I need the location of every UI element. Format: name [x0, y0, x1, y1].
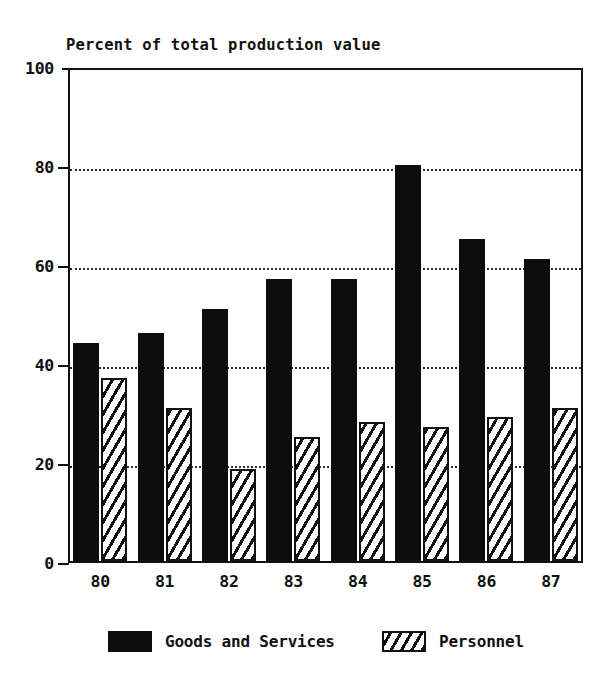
x-axis-tick-label: 86	[477, 572, 496, 591]
bar-86-personnel	[487, 417, 513, 561]
bar-85-personnel	[423, 427, 449, 561]
y-axis-tick-label: 80	[35, 158, 54, 177]
bar-83-personnel	[294, 437, 320, 561]
y-axis-tick-label: 40	[35, 356, 54, 375]
y-axis-tick-mark	[58, 563, 69, 565]
chart-legend: Goods and ServicesPersonnel	[0, 628, 612, 664]
bar-87-goods-and-services	[524, 259, 550, 561]
bar-81-personnel	[166, 408, 192, 561]
bar-81-goods-and-services	[138, 333, 164, 561]
legend-swatch-hatch	[382, 631, 426, 652]
bar-82-goods-and-services	[202, 309, 228, 561]
gridline	[70, 169, 581, 171]
y-axis-tick-label: 60	[35, 257, 54, 276]
bar-83-goods-and-services	[266, 279, 292, 561]
bar-84-personnel	[359, 422, 385, 561]
bar-87-personnel	[552, 408, 578, 561]
y-axis-tick-label: 100	[25, 59, 54, 78]
chart-title: Percent of total production value	[66, 36, 381, 54]
x-axis-labels: 8081828384858687	[68, 572, 583, 600]
bar-86-goods-and-services	[459, 239, 485, 561]
x-axis-tick-label: 81	[155, 572, 174, 591]
bar-82-personnel	[230, 469, 256, 561]
bar-80-personnel	[101, 378, 127, 561]
y-axis-labels: 020406080100	[0, 0, 68, 680]
x-axis-tick-label: 87	[541, 572, 560, 591]
bar-84-goods-and-services	[331, 279, 357, 561]
bar-85-goods-and-services	[395, 165, 421, 561]
x-axis-tick-label: 83	[284, 572, 303, 591]
legend-item: Personnel	[382, 628, 524, 654]
y-axis-tick-label: 20	[35, 455, 54, 474]
legend-swatch-solid	[108, 631, 152, 652]
bar-chart-figure: Percent of total production value 020406…	[0, 0, 612, 680]
x-axis-tick-label: 82	[219, 572, 238, 591]
y-axis-tick-label: 0	[44, 554, 54, 573]
legend-label: Goods and Services	[165, 632, 335, 651]
gridline	[70, 268, 581, 270]
x-axis-tick-label: 85	[412, 572, 431, 591]
x-axis-tick-label: 84	[348, 572, 367, 591]
legend-label: Personnel	[439, 632, 524, 651]
x-axis-tick-label: 80	[91, 572, 110, 591]
plot-area	[68, 68, 583, 563]
bar-80-goods-and-services	[73, 343, 99, 561]
legend-item: Goods and Services	[108, 628, 335, 654]
